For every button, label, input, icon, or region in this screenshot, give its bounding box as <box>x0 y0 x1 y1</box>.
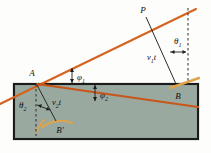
theta1-subscript: 1 <box>178 42 181 48</box>
label-b-prime-letter: B' <box>56 125 64 135</box>
theta2-subscript: 2 <box>23 106 26 112</box>
label-point-a: A <box>28 68 35 78</box>
refraction-diagram-svg: P A B B' θ1 θ2 φ1 φ2 v1t v2t <box>0 0 211 153</box>
label-point-b: B <box>175 91 181 101</box>
label-point-b-prime: B' <box>56 125 64 135</box>
label-point-p: P <box>139 5 146 15</box>
phi1-subscript: 1 <box>82 78 85 84</box>
phi2-subscript: 2 <box>105 96 108 102</box>
refraction-diagram-figure: P A B B' θ1 θ2 φ1 φ2 v1t v2t <box>0 0 211 153</box>
